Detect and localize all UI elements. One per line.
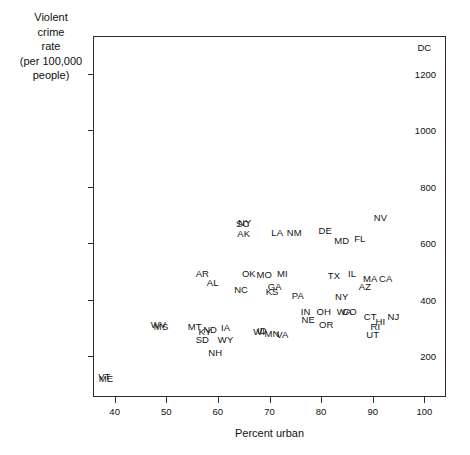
data-point-label: UT bbox=[366, 330, 379, 340]
data-point-label: NM bbox=[287, 228, 302, 238]
data-point-label: NH bbox=[208, 348, 222, 358]
data-point-label: SD bbox=[196, 335, 209, 345]
y-axis-tick-label: 800 bbox=[420, 181, 436, 192]
y-axis-tick-label: 1200 bbox=[415, 68, 436, 79]
data-point-label: ME bbox=[99, 374, 113, 384]
y-axis-tick-label: 1000 bbox=[415, 125, 436, 136]
data-point-label: TX bbox=[328, 271, 340, 281]
data-point-label: PA bbox=[292, 291, 304, 301]
data-point-label: NJ bbox=[387, 312, 399, 322]
data-point-label: AL bbox=[207, 278, 219, 288]
x-axis-tick-label: 60 bbox=[213, 406, 224, 417]
y-axis-tick bbox=[88, 243, 94, 244]
data-point-label: WY bbox=[218, 335, 234, 345]
data-point-label: NC bbox=[234, 285, 248, 295]
y-axis-tick-label: 600 bbox=[420, 238, 436, 249]
x-axis-tick-label: 80 bbox=[316, 406, 327, 417]
data-point-label: MO bbox=[257, 270, 273, 280]
y-axis-tick bbox=[88, 74, 94, 75]
x-axis-tick bbox=[166, 396, 167, 403]
data-point-label: VA bbox=[276, 330, 288, 340]
data-point-label: AZ bbox=[359, 282, 371, 292]
data-point-label: MS bbox=[154, 322, 168, 332]
plot-area: 20040060080010001200405060708090100Perce… bbox=[93, 36, 446, 397]
data-point-label: AK bbox=[237, 229, 250, 239]
data-point-label: OK bbox=[242, 269, 256, 279]
scatter-plot-figure: Violent crime rate (per 100,000 people) … bbox=[0, 0, 470, 455]
data-point-label: CA bbox=[379, 274, 392, 284]
x-axis-tick-label: 100 bbox=[416, 406, 432, 417]
y-axis-tick bbox=[88, 356, 94, 357]
x-axis-tick bbox=[218, 396, 219, 403]
x-axis-tick bbox=[270, 396, 271, 403]
x-axis-title: Percent urban bbox=[235, 427, 304, 439]
x-axis-tick-label: 40 bbox=[109, 406, 120, 417]
y-axis-tick bbox=[88, 300, 94, 301]
data-point-label: NE bbox=[302, 315, 315, 325]
data-point-label: CO bbox=[342, 307, 356, 317]
data-point-label: MD bbox=[334, 236, 349, 246]
data-point-label: DE bbox=[319, 226, 332, 236]
data-point-label: IL bbox=[348, 269, 356, 279]
data-point-label: MI bbox=[277, 269, 288, 279]
data-point-label: DC bbox=[417, 43, 431, 53]
y-axis-tick bbox=[88, 187, 94, 188]
y-axis-tick bbox=[88, 130, 94, 131]
x-axis-tick bbox=[115, 396, 116, 403]
x-axis-tick-label: 50 bbox=[161, 406, 172, 417]
y-axis-tick-label: 200 bbox=[420, 351, 436, 362]
data-point-label: NY bbox=[335, 292, 348, 302]
y-axis-title: Violent crime rate (per 100,000 people) bbox=[8, 10, 94, 83]
data-point-label: GA bbox=[268, 282, 282, 292]
x-axis-tick-label: 90 bbox=[367, 406, 378, 417]
x-axis-tick bbox=[373, 396, 374, 403]
data-point-label: FL bbox=[354, 234, 365, 244]
data-point-label: OR bbox=[319, 320, 333, 330]
data-point-label: NV bbox=[374, 213, 387, 223]
x-axis-tick bbox=[424, 396, 425, 403]
data-point-label: IA bbox=[221, 323, 230, 333]
y-axis-tick-label: 400 bbox=[420, 294, 436, 305]
x-axis-tick bbox=[321, 396, 322, 403]
x-axis-tick-label: 70 bbox=[264, 406, 275, 417]
data-point-label: OH bbox=[316, 307, 330, 317]
data-point-label: LA bbox=[271, 228, 283, 238]
data-point-label: NY bbox=[238, 218, 251, 228]
